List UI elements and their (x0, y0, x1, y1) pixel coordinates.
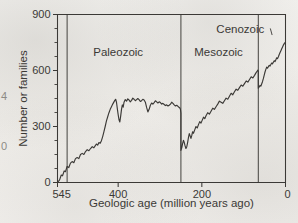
x-axis-ticks (58, 183, 286, 188)
era-annotation-labels: PaleozoicMesozoicCenozoic (93, 23, 272, 57)
axis-titles: Geologic age (million years ago)Number o… (17, 50, 254, 209)
data-series-line (58, 42, 286, 182)
x-tick-label-0: 0 (284, 188, 290, 200)
chart-plot: 03006009005454002000 PaleozoicMesozoicCe… (0, 0, 298, 223)
y-tick-label-900: 900 (32, 8, 50, 20)
series-number-of-families (58, 42, 286, 182)
y-tick-label-0: 0 (44, 176, 50, 188)
cenozoic-label: Cenozoic (216, 23, 264, 35)
era-divider-lines (67, 15, 258, 183)
y-axis-title: Number or families (17, 50, 29, 147)
axis-frame (58, 15, 286, 183)
paleozoic-label: Paleozoic (93, 46, 143, 58)
x-axis-title: Geologic age (million years ago) (89, 197, 254, 209)
cenozoic-leader-line (270, 28, 272, 35)
y-axis-ticks (53, 15, 58, 183)
y-tick-label-600: 600 (32, 64, 50, 76)
figure-canvas: 4 0 03006009005454002000 PaleozoicMesozo… (0, 0, 298, 223)
x-tick-label-545: 545 (53, 188, 71, 200)
y-tick-label-300: 300 (32, 120, 50, 132)
mesozoic-label: Mesozoic (194, 46, 243, 58)
